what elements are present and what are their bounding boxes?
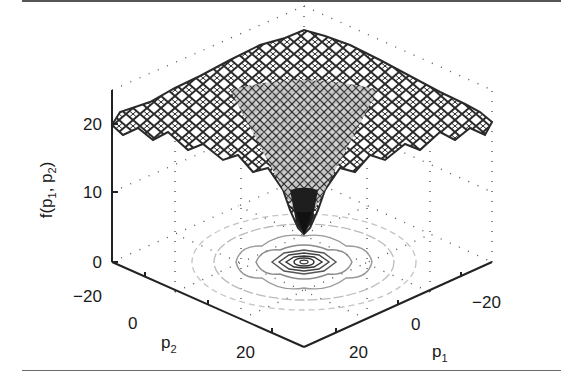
z-axis-label: f(p1, p2) [37,162,58,219]
p1-axis-label: p1 [432,342,448,364]
p2-tick-neg20: −20 [73,287,102,306]
p2-tick-0: 0 [128,314,137,333]
p1-tick-0: 0 [411,315,420,334]
z-tick-0: 0 [93,253,102,272]
z-tick-20: 20 [83,115,102,134]
p1-tick-neg20: −20 [472,293,501,312]
surface-plot: 0 10 20 f(p1, p2) −20 0 20 p2 −20 0 20 p… [0,0,561,388]
p2-tick-20: 20 [236,343,255,362]
z-tick-10: 10 [83,183,102,202]
p2-axis-label: p2 [161,333,177,355]
mesh-surface [112,30,492,234]
p1-tick-20: 20 [349,343,368,362]
